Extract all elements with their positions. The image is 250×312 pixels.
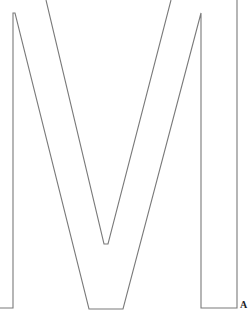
inner-v-outline	[46, 0, 171, 244]
left-stem-outline	[0, 0, 237, 309]
corner-label: A	[240, 300, 247, 310]
letter-m-outline-figure	[0, 0, 250, 312]
